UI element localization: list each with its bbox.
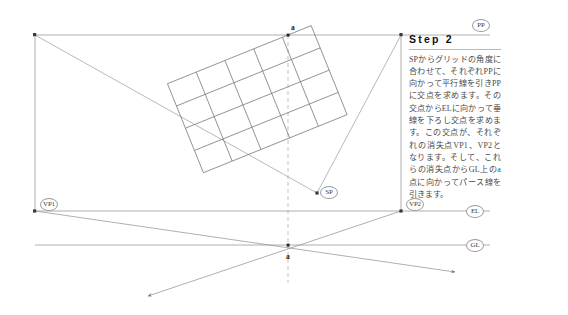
- label-point-a-top: a: [291, 23, 295, 32]
- sightline-sp-to-vp2-foot: [317, 35, 401, 193]
- node-vp2: [399, 209, 402, 212]
- perspective-line-from-vp1: [35, 211, 455, 272]
- node-a-bottom: [287, 244, 290, 247]
- label-pp: PP: [472, 19, 490, 32]
- node-pp-right: [399, 33, 402, 36]
- instruction-panel: Step 2 SPからグリッドの角度に合わせて、それぞれPPに向かって平行線を引…: [409, 34, 501, 201]
- label-point-a-bottom: a: [286, 252, 290, 261]
- diagram-canvas: PP EL GL VP1 VP2 SP a a Step 2 SPからグリッドの…: [0, 0, 568, 315]
- label-vp1: VP1: [40, 198, 58, 211]
- node-a-top: [287, 34, 290, 37]
- step-heading: Step 2: [409, 34, 501, 46]
- label-sp: SP: [320, 186, 338, 199]
- label-gl: GL: [466, 239, 484, 252]
- rotated-grid: [167, 26, 347, 173]
- node-pp-left: [33, 33, 36, 36]
- node-sp: [315, 191, 318, 194]
- node-vp1: [33, 209, 36, 212]
- instruction-text: SPからグリッドの角度に合わせて、それぞれPPに向かって平行線を引きPPに交点を…: [409, 54, 501, 202]
- heading-divider: [409, 49, 501, 50]
- sightline-sp-to-vp1-foot: [35, 35, 317, 193]
- perspective-line-from-vp2: [148, 211, 401, 296]
- label-el: EL: [466, 205, 484, 218]
